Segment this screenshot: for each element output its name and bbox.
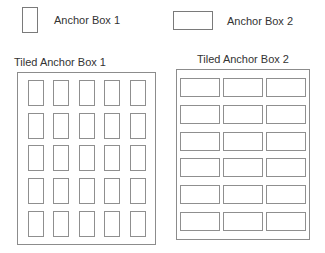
- anchor-box-tile: [28, 178, 44, 204]
- anchor-box-tile: [266, 212, 306, 231]
- anchor-box-tile: [104, 178, 120, 204]
- tiled-anchor-box-1-panel: Tiled Anchor Box 1: [14, 56, 153, 245]
- anchor-box-tile: [266, 132, 306, 151]
- tiled-anchor-box-1-grid: [17, 72, 156, 245]
- anchor-box-tile: [130, 211, 146, 237]
- anchor-box-tile: [53, 211, 69, 237]
- anchor-box-tile: [130, 145, 146, 171]
- anchor-box-tile: [266, 105, 306, 124]
- anchor-box-tile: [28, 113, 44, 139]
- anchor-box-tile: [53, 178, 69, 204]
- anchor-box-tile: [223, 105, 263, 124]
- legend-label-anchor-box-2: Anchor Box 2: [227, 15, 293, 27]
- tiled-anchor-box-2-title: Tiled Anchor Box 2: [176, 53, 310, 66]
- legend-item-anchor-box-1: Anchor Box 1: [22, 7, 120, 33]
- anchor-box-tile: [180, 185, 220, 204]
- anchor-box-tile: [130, 113, 146, 139]
- anchor-box-2-swatch-icon: [173, 11, 213, 30]
- tiled-anchor-box-2-grid: [176, 69, 310, 240]
- anchor-box-tile: [79, 113, 95, 139]
- tiled-anchor-box-2-panel: Tiled Anchor Box 2: [176, 53, 310, 240]
- anchor-box-tile: [104, 113, 120, 139]
- anchor-box-tile: [180, 212, 220, 231]
- anchor-box-tile: [266, 158, 306, 177]
- anchor-box-tile: [130, 80, 146, 106]
- anchor-box-tile: [266, 78, 306, 97]
- anchor-box-tile: [130, 178, 146, 204]
- anchor-box-tile: [104, 145, 120, 171]
- anchor-box-tile: [79, 80, 95, 106]
- anchor-box-tile: [180, 105, 220, 124]
- anchor-box-tile: [104, 211, 120, 237]
- anchor-box-tile: [223, 212, 263, 231]
- anchor-box-tile: [79, 211, 95, 237]
- anchor-box-tile: [223, 158, 263, 177]
- anchor-box-tile: [266, 185, 306, 204]
- anchor-box-tile: [79, 145, 95, 171]
- anchor-box-tile: [53, 145, 69, 171]
- tiled-anchor-box-1-title: Tiled Anchor Box 1: [14, 56, 153, 69]
- anchor-box-tile: [28, 145, 44, 171]
- anchor-box-tile: [180, 132, 220, 151]
- anchor-box-tile: [104, 80, 120, 106]
- anchor-box-tile: [223, 78, 263, 97]
- anchor-box-tile: [79, 178, 95, 204]
- anchor-box-tile: [223, 185, 263, 204]
- anchor-box-tile: [28, 211, 44, 237]
- anchor-box-tile: [53, 113, 69, 139]
- anchor-box-tile: [28, 80, 44, 106]
- anchor-box-tile: [180, 78, 220, 97]
- legend-label-anchor-box-1: Anchor Box 1: [54, 14, 120, 26]
- anchor-box-tile: [223, 132, 263, 151]
- legend-item-anchor-box-2: Anchor Box 2: [173, 11, 293, 30]
- anchor-box-figure: Anchor Box 1 Anchor Box 2 Tiled Anchor B…: [0, 0, 325, 253]
- anchor-box-1-swatch-icon: [22, 7, 38, 33]
- anchor-box-tile: [180, 158, 220, 177]
- anchor-box-tile: [53, 80, 69, 106]
